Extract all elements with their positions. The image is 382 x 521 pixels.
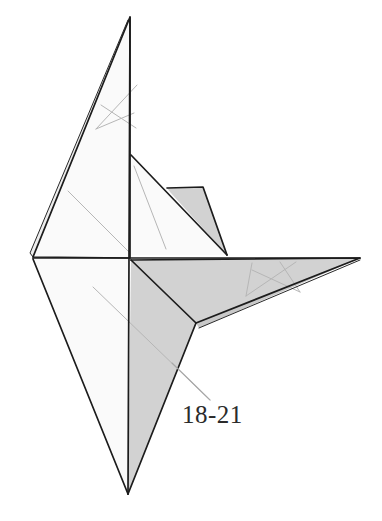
origami-illustration: 18-21 (0, 0, 382, 521)
origami-figure: 18-21 (0, 0, 382, 521)
step-range-caption: 18-21 (182, 401, 243, 428)
